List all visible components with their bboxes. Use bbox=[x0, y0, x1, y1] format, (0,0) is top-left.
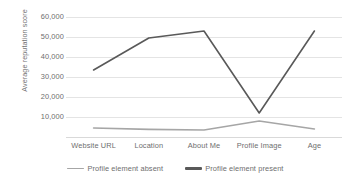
x-axis-tick-labels: Website URLLocationAbout MeProfile Image… bbox=[66, 141, 342, 155]
series-lines bbox=[66, 17, 342, 137]
legend-label: Profile element present bbox=[205, 164, 283, 173]
x-axis-tick-label: Website URL bbox=[71, 141, 116, 150]
y-axis-tick-label: 40,000 bbox=[24, 53, 64, 61]
x-axis-tick-label: Profile Image bbox=[237, 141, 282, 150]
legend-item[interactable]: Profile element absent bbox=[67, 164, 163, 173]
line-chart: Average reputation score 60,00050,00040,… bbox=[0, 0, 351, 185]
chart-legend: Profile element absentProfile element pr… bbox=[0, 164, 351, 173]
y-axis-tick-label: 20,000 bbox=[24, 93, 64, 101]
y-axis-tick-label: 60,000 bbox=[24, 13, 64, 21]
plot-area bbox=[66, 17, 342, 137]
legend-item[interactable]: Profile element present bbox=[185, 164, 283, 173]
x-axis-tick-label: Location bbox=[134, 141, 163, 150]
x-axis-line bbox=[66, 137, 342, 138]
y-axis-tick-labels: 60,00050,00040,00030,00020,00010,000 bbox=[24, 0, 64, 185]
y-axis-tick-label: 10,000 bbox=[24, 113, 64, 121]
legend-swatch-icon bbox=[67, 168, 84, 170]
y-axis-tick-label: 50,000 bbox=[24, 33, 64, 41]
series-line-profile-element-absent bbox=[94, 121, 315, 130]
x-axis-tick-label: About Me bbox=[188, 141, 220, 150]
legend-swatch-icon bbox=[185, 167, 202, 169]
series-line-profile-element-present bbox=[94, 31, 315, 113]
legend-label: Profile element absent bbox=[87, 164, 163, 173]
y-axis-tick-label: 30,000 bbox=[24, 73, 64, 81]
x-axis-tick-label: Age bbox=[308, 141, 321, 150]
